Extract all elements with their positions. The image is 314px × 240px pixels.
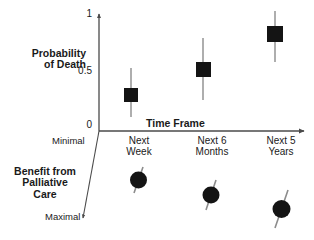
benefit-marker-next-week: [130, 167, 147, 193]
x-axis-title: Time Frame: [146, 118, 205, 129]
y-tick-0: 0: [76, 120, 92, 131]
y-tick-0-5: 0.5: [68, 66, 92, 77]
errorbar-next-6-months: [196, 38, 211, 100]
z-axis-near-label: Minimal: [52, 136, 85, 146]
benefit-marker-next-6-months: [203, 180, 220, 210]
x-category-next-6-months: Next 6 Months: [182, 136, 242, 158]
z-axis-title-line3: Care: [2, 189, 88, 200]
x-category-next-6-months-line2: Months: [182, 147, 242, 158]
z-axis-title: Benefit from Palliative Care: [2, 166, 88, 200]
z-axis-title-line2: Palliative: [2, 177, 88, 188]
z-axis-far-label: Maximal: [45, 212, 80, 222]
errorbar-next-5-years: [267, 11, 283, 62]
errorbar-next-week: [124, 68, 138, 117]
benefit-marker-next-5-years: [273, 190, 291, 228]
figure-canvas: Probability of Death 1 0.5 0 Time Frame …: [0, 0, 314, 240]
x-category-next-week: Next Week: [112, 136, 166, 158]
y-tick-1: 1: [76, 9, 92, 20]
x-category-next-5-years-line2: Years: [252, 147, 310, 158]
x-category-next-5-years: Next 5 Years: [252, 136, 310, 158]
x-category-next-week-line2: Week: [112, 147, 166, 158]
